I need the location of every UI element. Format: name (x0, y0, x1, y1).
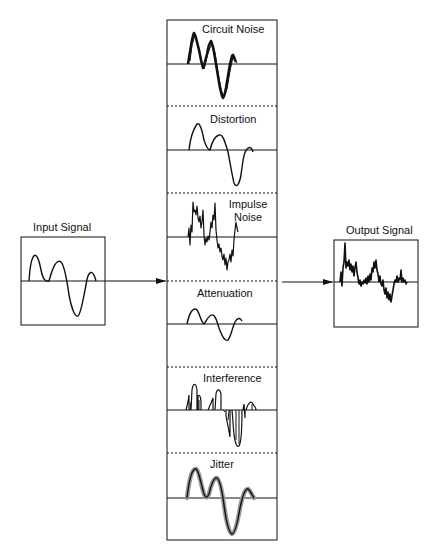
output-signal-label: Output Signal (346, 224, 413, 236)
input-signal-label: Input Signal (33, 221, 91, 233)
interference-label: Interference (203, 372, 262, 384)
diagram-canvas (0, 0, 439, 558)
impulse-noise-label-line2: Noise (228, 211, 268, 223)
distortion-label: Distortion (210, 113, 256, 125)
circuit-noise-label: Circuit Noise (202, 23, 264, 35)
interference-waveform (186, 384, 256, 446)
jitter-waveform (187, 469, 254, 534)
impulse-noise-label-line1: Impulse (228, 198, 268, 210)
output-waveform (340, 243, 407, 302)
jitter-label: Jitter (210, 458, 234, 470)
jitter-waveform-halo (187, 469, 254, 534)
input-waveform (29, 255, 96, 316)
attenuation-waveform (187, 309, 242, 340)
output-signal-box (334, 240, 418, 327)
input-signal-box (21, 237, 105, 325)
attenuation-label: Attenuation (197, 287, 253, 299)
distortion-waveform (189, 124, 253, 186)
